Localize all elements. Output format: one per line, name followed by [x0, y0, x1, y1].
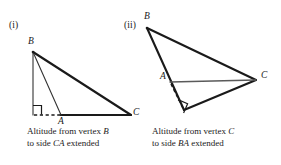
caption-figure-i: Altitude from vertex B to side CA extend…: [27, 126, 109, 149]
vertex-label-a-figure-ii: A: [160, 72, 166, 82]
caption-figure-i-line1-prefix: Altitude from vertex: [27, 126, 103, 136]
caption-figure-ii-line1-vertex: C: [228, 126, 234, 136]
altitude-figures-board: (i) (ii) B A C B A C Altitude from verte…: [0, 0, 281, 165]
caption-figure-ii-line2-suffix: extended: [189, 138, 224, 148]
segment-ac-figure-ii: [170, 80, 256, 82]
figure-number-ii: (ii): [124, 20, 136, 30]
caption-figure-i-line1: Altitude from vertex B: [27, 126, 109, 138]
caption-figure-i-line2-side: CA: [53, 138, 65, 148]
vertex-label-c-figure-i: C: [133, 108, 139, 118]
caption-figure-ii-line2-side: BA: [178, 138, 189, 148]
vertex-label-b-figure-i: B: [28, 37, 34, 47]
figure-number-i: (i): [9, 20, 18, 30]
vertex-dot-b-figure-ii: [146, 27, 149, 30]
altitude-segment-figure-ii: [184, 80, 256, 110]
caption-figure-i-line2-suffix: extended: [65, 138, 100, 148]
caption-figure-ii-line1-prefix: Altitude from vertex: [152, 126, 228, 136]
segment-ba-extended-figure-ii: [147, 28, 184, 110]
vertex-label-b-figure-ii: B: [144, 12, 150, 22]
caption-figure-i-line2-prefix: to side: [27, 138, 53, 148]
caption-figure-ii-line1: Altitude from vertex C: [152, 126, 234, 138]
caption-figure-ii-line2-prefix: to side: [152, 138, 178, 148]
caption-figure-ii: Altitude from vertex C to side BA extend…: [152, 126, 234, 149]
right-angle-marker-figure-i: [33, 106, 42, 115]
caption-figure-i-line2: to side CA extended: [27, 138, 109, 150]
vertex-dot-b-figure-i: [32, 51, 35, 54]
caption-figure-ii-line2: to side BA extended: [152, 138, 234, 150]
caption-figure-i-line1-vertex: B: [103, 126, 109, 136]
segment-bc-figure-i: [33, 52, 131, 115]
vertex-label-c-figure-ii: C: [261, 71, 267, 81]
